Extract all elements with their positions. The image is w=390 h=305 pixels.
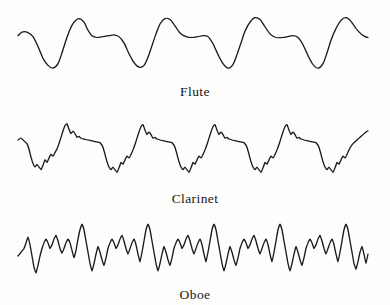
waveform-plot-flute [0,6,390,78]
oboe-waveform-line [18,224,368,273]
waveform-plot-clarinet [0,113,390,185]
flute-waveform-line [18,18,368,69]
flute-waveform-svg [0,6,390,78]
caption-oboe: Oboe [0,287,390,303]
panel-clarinet: Clarinet [0,105,390,205]
clarinet-waveform-line [18,124,368,173]
waveform-plot-oboe [0,211,390,286]
clarinet-waveform-svg [0,113,390,185]
oboe-waveform-svg [0,211,390,286]
panel-oboe: Oboe [0,205,390,305]
panel-flute: Flute [0,0,390,105]
waveform-figure: Flute Clarinet Oboe [0,0,390,305]
caption-flute: Flute [0,84,390,100]
